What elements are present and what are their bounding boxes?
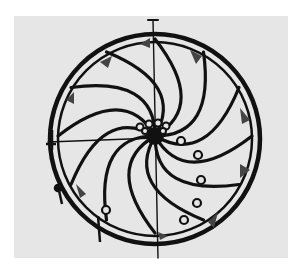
wheel-drawing xyxy=(0,0,300,276)
